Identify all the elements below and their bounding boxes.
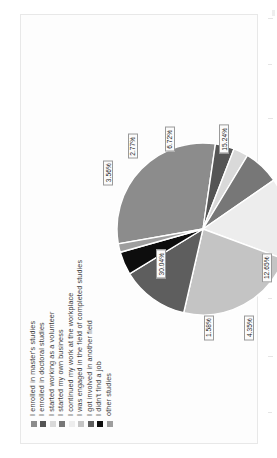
- legend-swatch-icon: [78, 421, 84, 427]
- legend-swatch-icon: [31, 421, 37, 427]
- slice-value-label: 15.24%: [219, 125, 229, 154]
- slice-value-label: 30.04%: [156, 250, 166, 279]
- slice-value-label: 12.65%: [261, 253, 271, 282]
- chart-legend: I enrolled in master's studiesI enrolled…: [29, 25, 113, 433]
- chart-plot-area: 30.04%3.56%2.77%6.72%15.24%22.92%12.65%4…: [115, 25, 277, 433]
- legend-item-label: I continued my work at the workplace: [66, 293, 74, 416]
- legend-item: I started my own business: [57, 25, 65, 427]
- legend-swatch-icon: [97, 421, 103, 427]
- legend-swatch-icon: [68, 421, 74, 427]
- slice-value-label: 3.56%: [103, 160, 113, 185]
- legend-item-label: I was engaged in the field of completed …: [76, 260, 84, 416]
- legend-item: I continued my work at the workplace: [66, 25, 74, 427]
- legend-item: I didn't find a job: [95, 25, 103, 427]
- legend-item-label: I got involved in another field: [85, 320, 93, 416]
- legend-item-label: I enrolled in doctoral studies: [38, 322, 46, 416]
- legend-item-label: I didn't find a job: [95, 361, 103, 416]
- legend-item-label: I enrolled in master's studies: [29, 321, 37, 416]
- legend-item-label: I started working as a volunteer: [47, 312, 55, 417]
- legend-swatch-icon: [59, 421, 65, 427]
- legend-swatch-icon: [49, 421, 55, 427]
- slice-value-label: 4.35%: [244, 315, 254, 340]
- scanned-page: I enrolled in master's studiesI enrolled…: [0, 0, 277, 458]
- slice-value-label: 1.58%: [203, 315, 213, 340]
- slice-value-label: 6.72%: [164, 127, 174, 152]
- legend-item: I enrolled in master's studies: [29, 25, 37, 427]
- pie-chart-figure: I enrolled in master's studiesI enrolled…: [20, 14, 258, 444]
- slice-value-label: 2.77%: [127, 134, 137, 159]
- pie-svg: [115, 141, 277, 317]
- legend-swatch-icon: [87, 421, 93, 427]
- legend-item-label: other studies: [104, 373, 112, 416]
- pie-wrap: 30.04%3.56%2.77%6.72%15.24%22.92%12.65%4…: [115, 141, 277, 317]
- legend-item: other studies: [104, 25, 112, 427]
- legend-swatch-icon: [40, 421, 46, 427]
- legend-item: I was engaged in the field of completed …: [76, 25, 84, 427]
- legend-item: I enrolled in doctoral studies: [38, 25, 46, 427]
- legend-item: I started working as a volunteer: [47, 25, 55, 427]
- legend-swatch-icon: [106, 421, 112, 427]
- legend-item: I got involved in another field: [85, 25, 93, 427]
- legend-item-label: I started my own business: [57, 329, 65, 416]
